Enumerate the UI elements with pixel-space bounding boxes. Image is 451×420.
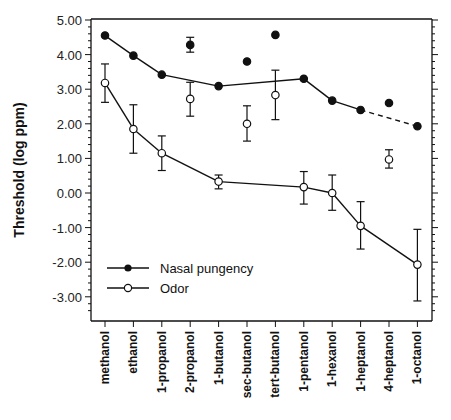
series-odor xyxy=(101,64,421,301)
y-tick-label: 2.00 xyxy=(57,117,82,132)
open-circle-marker xyxy=(187,95,194,102)
y-tick-label: -2.00 xyxy=(52,255,82,270)
y-tick-label: 1.00 xyxy=(57,151,82,166)
filled-circle-marker xyxy=(414,123,421,130)
filled-circle-marker xyxy=(385,99,392,106)
legend: Nasal pungency Odor xyxy=(107,261,254,296)
filled-circle-marker xyxy=(357,106,364,113)
x-tick-label: 1-heptanol xyxy=(354,331,368,392)
y-axis-label: Threshold (log ppm) xyxy=(11,102,27,237)
open-circle-marker xyxy=(385,156,392,163)
filled-circle-marker xyxy=(130,52,137,59)
x-tick-label: ethanol xyxy=(126,331,140,374)
x-tick-label: sec-butanol xyxy=(240,331,254,398)
x-tick-label: 1-hexanol xyxy=(325,331,339,387)
open-circle-marker xyxy=(272,91,279,98)
filled-circle-marker xyxy=(187,41,194,48)
filled-circle-marker xyxy=(243,58,250,65)
x-tick-label: tert-butanol xyxy=(268,331,282,398)
open-circle-marker xyxy=(215,178,222,185)
filled-circle-marker xyxy=(158,71,165,78)
y-tick-label: -3.00 xyxy=(52,290,82,305)
open-circle-marker xyxy=(158,150,165,157)
chart: 5.004.003.002.001.000.00-1.00-2.00-3.00 … xyxy=(0,0,451,420)
open-circle-marker xyxy=(357,222,364,229)
x-axis-ticks: methanolethanol1-propanol2-propanol1-but… xyxy=(98,321,424,398)
y-tick-label: 5.00 xyxy=(57,13,82,28)
y-tick-label: 4.00 xyxy=(57,48,82,63)
open-circle-marker xyxy=(130,125,137,132)
x-tick-label: methanol xyxy=(98,331,112,384)
open-circle-marker xyxy=(243,120,250,127)
legend-label-odor: Odor xyxy=(160,281,190,296)
filled-circle-marker xyxy=(329,97,336,104)
x-tick-label: 1-pentanol xyxy=(297,331,311,392)
open-circle-marker xyxy=(300,183,307,190)
open-circle-marker xyxy=(329,189,336,196)
open-circle-icon xyxy=(124,284,131,291)
legend-label-nasal-pungency: Nasal pungency xyxy=(160,261,254,276)
filled-circle-marker xyxy=(215,82,222,89)
x-tick-label: 4-heptanol xyxy=(382,331,396,392)
open-circle-marker xyxy=(101,79,108,86)
open-circle-marker xyxy=(414,261,421,268)
filled-circle-marker xyxy=(300,75,307,82)
x-tick-label: 2-propanol xyxy=(183,331,197,393)
filled-circle-marker xyxy=(272,31,279,38)
filled-circle-marker xyxy=(101,32,108,39)
x-tick-label: 1-propanol xyxy=(155,331,169,393)
filled-circle-icon xyxy=(124,264,131,271)
series-nasal-pungency xyxy=(101,31,421,130)
plot-series xyxy=(101,31,421,301)
y-tick-label: 3.00 xyxy=(57,82,82,97)
y-tick-label: 0.00 xyxy=(57,186,82,201)
axes xyxy=(91,19,432,321)
y-tick-label: -1.00 xyxy=(52,221,82,236)
x-tick-label: 1-butanol xyxy=(212,331,226,385)
x-tick-label: 1-octanol xyxy=(410,331,424,384)
